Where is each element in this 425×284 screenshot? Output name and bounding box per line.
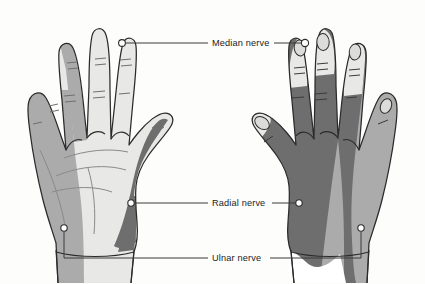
radial-marker-dorsal-web [296, 200, 302, 206]
ulnar-marker-dorsal-wrist [358, 225, 364, 231]
figure-canvas: Median nerve Radial nerve Ulnar nerve [0, 0, 425, 284]
median-marker-dorsal-index [301, 39, 308, 46]
radial-marker-palmar-thenar [128, 200, 134, 206]
median-marker-palmar-index [119, 40, 126, 47]
label-ulnar-nerve: Ulnar nerve [212, 253, 261, 263]
ulnar-marker-palmar-wrist [61, 225, 67, 231]
nerve-distribution-figure: Median nerve Radial nerve Ulnar nerve [0, 0, 425, 284]
label-median-nerve: Median nerve [212, 38, 269, 48]
label-radial-nerve: Radial nerve [212, 198, 265, 208]
nail-index [316, 33, 329, 51]
